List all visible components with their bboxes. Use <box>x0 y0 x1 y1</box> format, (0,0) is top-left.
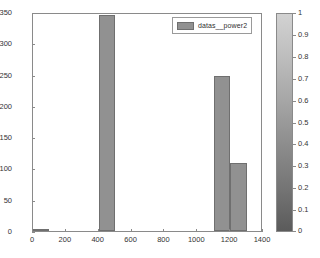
x-tick-label: 1400 <box>242 235 282 244</box>
colorbar-tick-mark <box>293 35 296 36</box>
legend-swatch-icon <box>177 22 194 30</box>
histogram-bar <box>214 76 230 231</box>
colorbar[interactable]: 10.90.80.70.60.50.40.30.20.10 <box>276 13 320 232</box>
y-tick-label: 300 <box>0 40 12 48</box>
y-tick-mark <box>32 107 35 108</box>
histogram-bar <box>99 15 115 231</box>
colorbar-tick-label: 0.9 <box>298 31 308 39</box>
colorbar-tick-mark <box>293 144 296 145</box>
y-tick-mark <box>32 201 35 202</box>
y-tick-label: 350 <box>0 9 12 17</box>
matlab-figure: 050100150200250300350 020040060080010001… <box>0 0 320 258</box>
colorbar-tick-mark <box>293 123 296 124</box>
y-tick-mark <box>32 138 35 139</box>
main-axes: 050100150200250300350 020040060080010001… <box>0 0 275 258</box>
colorbar-tick-label: 0.7 <box>298 75 308 83</box>
y-tick-mark <box>32 169 35 170</box>
plot-area[interactable] <box>32 13 262 232</box>
y-tick-label: 250 <box>0 72 12 80</box>
histogram-bar <box>33 229 49 231</box>
colorbar-tick-label: 0 <box>298 227 302 235</box>
x-tick-mark <box>196 229 197 232</box>
x-tick-mark <box>163 229 164 232</box>
colorbar-tick-mark <box>293 231 296 232</box>
y-tick-label: 150 <box>0 134 12 142</box>
colorbar-tick-mark <box>293 101 296 102</box>
x-tick-mark <box>262 229 263 232</box>
y-tick-mark <box>32 44 35 45</box>
y-tick-mark <box>32 13 35 14</box>
colorbar-tick-label: 0.6 <box>298 97 308 105</box>
colorbar-tick-mark <box>293 210 296 211</box>
x-tick-mark <box>65 229 66 232</box>
y-tick-mark <box>32 76 35 77</box>
legend-label: datas__power2 <box>198 22 247 29</box>
y-tick-label: 200 <box>0 103 12 111</box>
colorbar-tick-label: 0.8 <box>298 53 308 61</box>
colorbar-tick-label: 1 <box>298 9 302 17</box>
colorbar-tick-mark <box>293 79 296 80</box>
colorbar-tick-mark <box>293 188 296 189</box>
colorbar-tick-label: 0.3 <box>298 162 308 170</box>
colorbar-gradient <box>276 13 293 232</box>
x-tick-mark <box>229 229 230 232</box>
x-tick-mark <box>98 229 99 232</box>
y-tick-label: 0 <box>0 228 12 236</box>
y-tick-label: 50 <box>0 197 12 205</box>
y-tick-label: 100 <box>0 165 12 173</box>
colorbar-tick-mark <box>293 57 296 58</box>
x-tick-mark <box>131 229 132 232</box>
colorbar-tick-label: 0.2 <box>298 184 308 192</box>
colorbar-tick-label: 0.5 <box>298 119 308 127</box>
legend[interactable]: datas__power2 <box>172 17 252 34</box>
y-tick-mark <box>32 232 35 233</box>
colorbar-tick-label: 0.4 <box>298 140 308 148</box>
colorbar-tick-mark <box>293 13 296 14</box>
colorbar-tick-label: 0.1 <box>298 206 308 214</box>
colorbar-tick-mark <box>293 166 296 167</box>
histogram-bar <box>230 163 246 231</box>
x-tick-mark <box>32 229 33 232</box>
